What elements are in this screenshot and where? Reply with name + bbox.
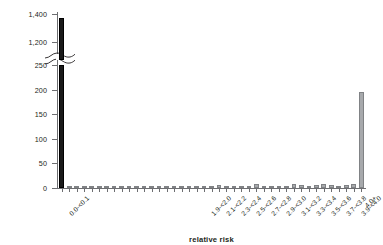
y-tick-100: [52, 139, 57, 140]
x-tick-3.9-<4.0: [354, 188, 355, 192]
x-tick-0.3-<0.4: [84, 188, 85, 192]
y-label-250: 250: [35, 62, 47, 69]
x-tick-0.6-<0.7: [107, 188, 108, 192]
x-tick-1.5-<1.6: [174, 188, 175, 192]
x-tick-3.3-<3.4: [309, 188, 310, 192]
x-tick-3.5-<3.6: [324, 188, 325, 192]
x-tick-0.2-<0.3: [77, 188, 78, 192]
x-tick-3.2-<3.3: [301, 188, 302, 192]
x-tick-0.7-<0.8: [114, 188, 115, 192]
x-tick-4.0+: [361, 188, 362, 192]
x-tick-1.3-<1.4: [159, 188, 160, 192]
y-label-0: 0: [43, 185, 47, 192]
x-tick-2.8-<2.9: [271, 188, 272, 192]
y-label-150: 150: [35, 111, 47, 118]
x-tick-2.4-<2.5: [241, 188, 242, 192]
x-tick-1.1-<1.2: [144, 188, 145, 192]
x-tick-2.0-<2.1: [212, 188, 213, 192]
y-tick-150: [52, 114, 57, 115]
y-label-1200: 1,200: [29, 39, 48, 46]
y-label-100: 100: [35, 136, 47, 143]
x-axis-title-wrap: relative risk: [57, 228, 366, 245]
x-tick-2.6-<2.7: [256, 188, 257, 192]
x-axis-title: relative risk: [189, 235, 234, 244]
x-tick-1.6-<1.7: [182, 188, 183, 192]
bars-layer: [58, 12, 365, 188]
y-label-50: 50: [39, 160, 47, 167]
y-tick-1400: [52, 14, 57, 15]
y-label-1400: 1,400: [29, 11, 48, 18]
x-tick-0.0-<0.1: [62, 188, 63, 192]
x-tick-2.5-<2.6: [249, 188, 250, 192]
bar-4.0+: [359, 92, 364, 188]
x-tick-1.2-<1.3: [152, 188, 153, 192]
x-tick-1.8-<1.9: [197, 188, 198, 192]
x-tick-1.9-<2.0: [204, 188, 205, 192]
x-tick-3.8-<3.9: [346, 188, 347, 192]
y-tick-50: [52, 163, 57, 164]
x-tick-2.2-<2.3: [226, 188, 227, 192]
x-tick-3.0-<3.1: [286, 188, 287, 192]
x-tick-1.4-<1.5: [167, 188, 168, 192]
bar-0.0-<0.1: [59, 65, 64, 188]
bar-upper-0.0-<0.1: [59, 18, 64, 61]
x-tick-0.9-<1.0: [129, 188, 130, 192]
y-tick-200: [52, 90, 57, 91]
x-label-0.0-<0.1: 0.0-<0.1: [68, 195, 90, 217]
x-tick-2.3-<2.4: [234, 188, 235, 192]
x-tick-3.6-<3.7: [331, 188, 332, 192]
x-tick-3.4-<3.5: [316, 188, 317, 192]
x-tick-1.7-<1.8: [189, 188, 190, 192]
y-tick-250: [52, 65, 57, 66]
y-tick-1200: [52, 42, 57, 43]
x-tick-0.8-<0.9: [122, 188, 123, 192]
x-tick-3.7-<3.8: [339, 188, 340, 192]
x-tick-1.0-<1.1: [137, 188, 138, 192]
y-tick-0: [52, 188, 57, 189]
x-tick-2.1-<2.2: [219, 188, 220, 192]
x-tick-2.9-<3.0: [279, 188, 280, 192]
x-tick-0.1-<0.2: [69, 188, 70, 192]
x-tick-2.7-<2.8: [264, 188, 265, 192]
x-tick-0.5-<0.6: [99, 188, 100, 192]
x-tick-0.4-<0.5: [92, 188, 93, 192]
x-tick-3.1-<3.2: [294, 188, 295, 192]
y-label-200: 200: [35, 87, 47, 94]
